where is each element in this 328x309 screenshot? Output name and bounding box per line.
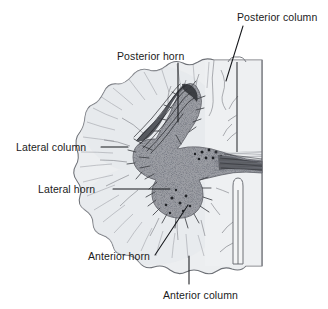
label-anterior-horn: Anterior horn: [88, 251, 150, 262]
spinal-cord-illustration: [0, 0, 328, 309]
label-lateral-horn: Lateral horn: [38, 184, 95, 195]
label-posterior-column: Posterior column: [237, 12, 317, 23]
gray-commissure: [214, 151, 264, 173]
label-lateral-column: Lateral column: [16, 142, 86, 153]
label-anterior-column: Anterior column: [163, 290, 238, 301]
spinal-cord-figure: Posterior column Posterior horn Lateral …: [0, 0, 328, 309]
label-posterior-horn: Posterior horn: [117, 51, 184, 62]
